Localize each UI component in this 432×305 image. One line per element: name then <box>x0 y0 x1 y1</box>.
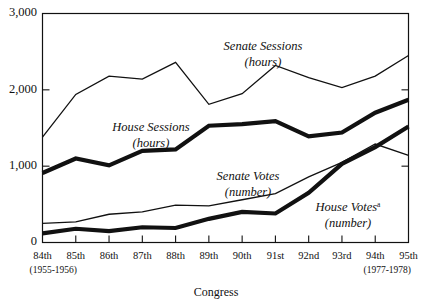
house-votes-label-line1: House Votesa <box>315 200 381 214</box>
x-tick-label-93rd: 93rd <box>332 250 352 261</box>
x-tick-label-89th: 89th <box>200 250 219 261</box>
senate-votes-label-line1: Senate Votes <box>217 169 280 183</box>
house-sessions-label-line1: House Sessions <box>111 120 190 134</box>
x-tick-label-88th: 88th <box>166 250 185 261</box>
x-tick-label-94th: 94th <box>366 250 385 261</box>
x-axis-title: Congress <box>194 285 239 299</box>
house-sessions-label-line2: (hours) <box>133 136 170 150</box>
chart-container: 3,0002,0001,0000 84th85th86th87th88th89t… <box>0 0 432 305</box>
x-sub-label-first: (1955-1956) <box>30 265 78 276</box>
x-tick-label-92nd: 92nd <box>298 250 320 261</box>
congress-sessions-votes-line-chart: 3,0002,0001,0000 84th85th86th87th88th89t… <box>0 0 432 305</box>
senate-sessions-label-line2: (hours) <box>245 55 282 69</box>
x-tick-label-84th: 84th <box>33 250 52 261</box>
x-tick-label-87th: 87th <box>133 250 152 261</box>
x-tick-label-85th: 85th <box>66 250 85 261</box>
y-tick-label-1000: 1,000 <box>9 158 37 172</box>
x-sub-label-last: (1977-1978) <box>364 265 412 276</box>
y-tick-label-0: 0 <box>31 234 37 248</box>
x-tick-label-95th: 95th <box>399 250 418 261</box>
y-tick-label-2000: 2,000 <box>9 82 37 96</box>
x-tick-label-90th: 90th <box>233 250 252 261</box>
x-tick-label-86th: 86th <box>100 250 119 261</box>
senate-sessions-label-line1: Senate Sessions <box>224 39 303 53</box>
senate-votes-label-line2: (number) <box>225 185 272 199</box>
y-tick-label-3000: 3,000 <box>9 5 37 19</box>
x-tick-label-91st: 91st <box>267 250 285 261</box>
house-votes-label-line2: (number) <box>325 216 372 230</box>
